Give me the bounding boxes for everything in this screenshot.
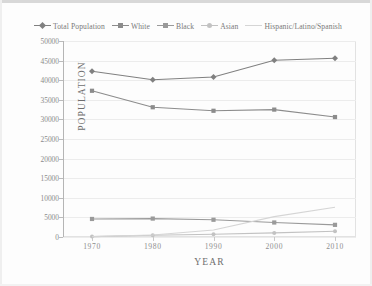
series-marker: [212, 232, 216, 236]
series-marker: [271, 57, 277, 63]
legend-item[interactable]: White: [112, 22, 150, 31]
series-marker: [272, 220, 276, 224]
y-axis-tick-label: 40000: [5, 76, 59, 85]
data-series-layer: [63, 41, 356, 237]
series-marker: [151, 105, 155, 109]
legend-label: Black: [176, 22, 194, 31]
legend-item[interactable]: Hispanic/Latino/Spanish: [245, 22, 341, 31]
x-axis-tick-label: 2010: [312, 242, 358, 251]
x-axis-title: YEAR: [63, 257, 356, 267]
x-axis-tick-mark: [153, 237, 154, 241]
y-axis-tick-label: 15000: [5, 174, 59, 183]
frame-top-border: [0, 0, 372, 3]
chart-legend: Total PopulationWhiteBlackAsianHispanic/…: [34, 19, 344, 33]
series-marker: [333, 229, 337, 233]
x-axis-tick-label: 2000: [251, 242, 297, 251]
y-axis-tick-mark: [59, 237, 63, 238]
legend-marker-icon: [245, 22, 262, 30]
series-marker: [332, 55, 338, 61]
legend-marker-icon: [201, 22, 218, 30]
series-marker: [90, 217, 94, 221]
series-marker: [272, 108, 276, 112]
legend-item[interactable]: Asian: [201, 22, 238, 31]
y-axis-tick-label: 35000: [5, 96, 59, 105]
y-axis-tick-label: 30000: [5, 115, 59, 124]
x-axis-tick-mark: [335, 237, 336, 241]
series-marker: [90, 89, 94, 93]
plot-area: 5000045000400003500030000250002000015000…: [63, 41, 356, 237]
legend-label: Asian: [220, 22, 238, 31]
series-marker: [211, 218, 215, 222]
legend-label: White: [131, 22, 150, 31]
legend-item[interactable]: Total Population: [34, 22, 105, 31]
legend-label: Hispanic/Latino/Spanish: [264, 22, 341, 31]
y-axis-tick-label: 45000: [5, 57, 59, 66]
y-axis-tick-label: 20000: [5, 155, 59, 164]
series-marker: [211, 109, 215, 113]
legend-label: Total Population: [53, 22, 105, 31]
y-axis-title: POPULATION: [77, 41, 87, 151]
series-marker: [333, 223, 337, 227]
x-axis-tick-mark: [214, 237, 215, 241]
chart-screenshot: Total PopulationWhiteBlackAsianHispanic/…: [0, 0, 372, 286]
legend-item[interactable]: Black: [157, 22, 194, 31]
legend-marker-icon: [112, 22, 129, 30]
series-marker: [89, 68, 95, 74]
series-marker: [151, 216, 155, 220]
x-axis-tick-label: 1970: [69, 242, 115, 251]
series-marker: [150, 77, 156, 83]
y-axis-tick-label: 5000: [5, 213, 59, 222]
y-axis-tick-label: 25000: [5, 135, 59, 144]
series-line: [92, 91, 335, 117]
x-axis-tick-label: 1990: [191, 242, 237, 251]
gridline: [63, 237, 356, 238]
legend-marker-icon: [157, 22, 174, 30]
y-axis-tick-label: 50000: [5, 37, 59, 46]
legend-marker-icon: [34, 22, 51, 30]
series-marker: [333, 115, 337, 119]
x-axis-tick-label: 1980: [130, 242, 176, 251]
y-axis-tick-label: 10000: [5, 194, 59, 203]
frame-left-border: [0, 0, 2, 286]
x-axis-tick-mark: [274, 237, 275, 241]
y-axis-tick-label: 0: [5, 233, 59, 242]
series-marker: [272, 231, 276, 235]
series-marker: [211, 74, 217, 80]
